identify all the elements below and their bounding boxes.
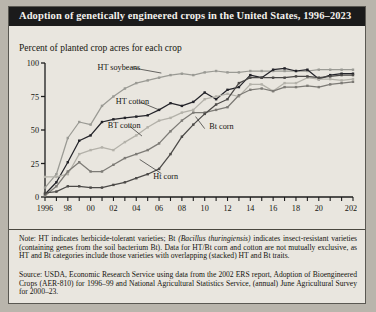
series-label-bt-cotton: BT cotton: [108, 121, 141, 130]
x-axis-tick-label: 02: [109, 204, 117, 213]
figure-subtitle: Percent of planted crop acres for each c…: [19, 43, 182, 53]
source-text: USDA, Economic Research Service using da…: [19, 270, 357, 296]
series-bt-cotton: [44, 77, 354, 179]
figure-title: Adoption of genetically engineered crops…: [19, 10, 357, 22]
series-ht-corn: [44, 74, 354, 194]
x-axis-tick-label: 12: [223, 204, 231, 213]
y-axis-tick-label: 100: [27, 59, 39, 68]
y-axis-tick-label: 0: [35, 193, 39, 202]
figure-container: Adoption of genetically engineered crops…: [8, 6, 366, 304]
y-axis-tick-label: 75: [31, 93, 39, 102]
x-axis-tick-label: 2023: [345, 204, 357, 213]
series-label-ht-soybeans: HT soybeans: [97, 63, 140, 72]
series-label-ht-cotton: HT cotton: [116, 97, 149, 106]
chart-plot-area: 0255075100199698000204060810121416182020…: [19, 57, 357, 222]
x-axis-tick-label: 20: [315, 204, 323, 213]
y-axis-tick-label: 50: [31, 126, 39, 135]
x-axis-tick-label: 04: [132, 204, 140, 213]
figure-note: Note: HT indicates herbicide-tolerant va…: [19, 235, 357, 261]
figure-source: Source: USDA, Economic Research Service …: [19, 271, 357, 297]
x-axis-tick-label: 00: [87, 204, 95, 213]
x-axis-tick-label: 10: [201, 204, 209, 213]
series-label-ht-corn: Ht corn: [153, 172, 178, 181]
footer-divider: [9, 229, 365, 230]
x-axis-tick-label: 14: [246, 204, 254, 213]
figure-header: Adoption of genetically engineered crops…: [9, 7, 365, 26]
x-axis-tick-label: 1996: [37, 204, 53, 213]
series-label-bt-corn: Bt corn: [209, 122, 233, 131]
series-bt-corn: [44, 81, 354, 197]
x-axis-tick-label: 08: [178, 204, 186, 213]
x-axis-tick-label: 98: [64, 204, 72, 213]
x-axis-tick-label: 06: [155, 204, 163, 213]
x-axis-tick-label: 16: [269, 204, 277, 213]
line-chart: 0255075100199698000204060810121416182020…: [19, 57, 357, 222]
x-axis-tick-label: 18: [292, 204, 300, 213]
y-axis-tick-label: 25: [31, 160, 39, 169]
